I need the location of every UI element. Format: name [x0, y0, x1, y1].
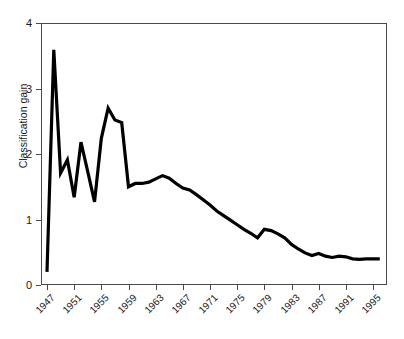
x-tick-label: 1959	[108, 292, 138, 322]
x-tick-label: 1963	[135, 292, 165, 322]
y-axis-label: Classification gain	[17, 51, 29, 201]
y-tick-label: 1	[16, 215, 32, 226]
x-tick-label: 1991	[325, 292, 355, 322]
plot-area	[41, 23, 387, 285]
x-tick-label: 1947	[26, 292, 56, 322]
x-tick-label: 1951	[54, 292, 84, 322]
y-tick-label: 2	[16, 149, 32, 160]
x-tick-mark	[156, 285, 157, 290]
x-tick-label: 1975	[217, 292, 247, 322]
x-tick-mark	[264, 285, 265, 290]
x-tick-mark	[183, 285, 184, 290]
x-tick-mark	[129, 285, 130, 290]
x-tick-mark	[101, 285, 102, 290]
x-tick-label: 1971	[189, 292, 219, 322]
x-tick-label: 1979	[244, 292, 274, 322]
y-tick-label: 4	[16, 18, 32, 29]
x-tick-mark	[47, 285, 48, 290]
y-tick-label: 0	[16, 280, 32, 291]
x-tick-mark	[373, 285, 374, 290]
x-tick-label: 1955	[81, 292, 111, 322]
x-tick-mark	[74, 285, 75, 290]
x-tick-label: 1967	[162, 292, 192, 322]
classification-gain-chart: Classification gain 01234 19471951195519…	[0, 0, 404, 339]
x-tick-mark	[210, 285, 211, 290]
x-tick-label: 1995	[352, 292, 382, 322]
y-tick-label: 3	[16, 84, 32, 95]
x-tick-mark	[237, 285, 238, 290]
x-tick-mark	[319, 285, 320, 290]
x-tick-label: 1987	[298, 292, 328, 322]
x-tick-label: 1983	[271, 292, 301, 322]
x-tick-mark	[292, 285, 293, 290]
x-tick-mark	[346, 285, 347, 290]
y-tick-mark	[36, 285, 41, 286]
